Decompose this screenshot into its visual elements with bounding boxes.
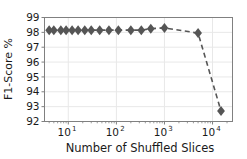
series-line <box>49 28 221 111</box>
svg-text:10: 10 <box>202 126 215 138</box>
svg-text:1: 1 <box>72 125 76 133</box>
y-axis-tick-labels: 9293949596979899 <box>26 11 44 127</box>
y-tick-label: 98 <box>26 26 39 38</box>
x-axis-label: Number of Shuffled Slices <box>66 141 215 155</box>
x-tick-label: 102 <box>106 125 125 138</box>
y-tick-label: 99 <box>26 11 39 23</box>
data-point-marker <box>161 23 169 33</box>
svg-text:3: 3 <box>168 125 172 133</box>
data-point-marker <box>87 25 95 35</box>
chart-figure: 9293949596979899 101102103104 F1-Score %… <box>0 0 247 159</box>
data-point-marker <box>74 25 82 35</box>
data-point-marker <box>105 25 113 35</box>
y-tick-label: 96 <box>26 56 40 68</box>
y-tick-label: 94 <box>26 85 40 97</box>
data-series <box>45 23 225 116</box>
data-point-marker <box>217 106 225 116</box>
data-point-marker <box>50 25 58 35</box>
data-point-marker <box>137 25 145 35</box>
y-tick-label: 92 <box>26 115 39 127</box>
y-tick-label: 93 <box>26 100 39 112</box>
chart-canvas: 9293949596979899 101102103104 F1-Score %… <box>0 0 247 159</box>
x-tick-label: 104 <box>202 125 221 138</box>
svg-text:10: 10 <box>106 126 119 138</box>
x-tick-label: 101 <box>58 125 77 138</box>
y-axis-label: F1-Score % <box>2 38 15 100</box>
svg-text:2: 2 <box>120 125 124 133</box>
svg-text:10: 10 <box>154 126 167 138</box>
x-axis-tick-labels: 101102103104 <box>49 122 227 138</box>
svg-text:4: 4 <box>216 125 221 133</box>
data-point-marker <box>114 25 122 35</box>
data-point-marker <box>194 28 202 38</box>
y-tick-label: 97 <box>26 41 39 53</box>
data-point-marker <box>127 25 135 35</box>
y-tick-label: 95 <box>26 71 39 83</box>
x-tick-label: 103 <box>154 125 173 138</box>
svg-text:10: 10 <box>58 126 71 138</box>
data-point-marker <box>96 25 104 35</box>
